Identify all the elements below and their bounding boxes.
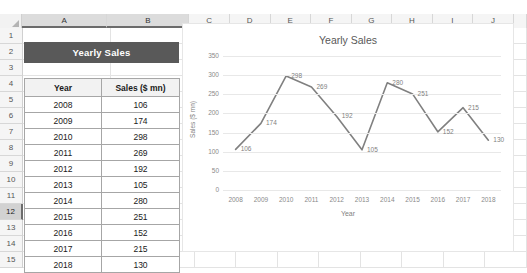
row-header-11[interactable]: 11 [0,188,23,204]
chart-y-tick-label: 150 [182,129,219,136]
cell-sales[interactable]: 215 [102,241,180,257]
row-header-6[interactable]: 6 [0,108,23,124]
select-all-triangle-icon [12,20,19,27]
table-header-sales: Sales ($ mn) [102,79,180,97]
cell-year[interactable]: 2010 [25,129,102,145]
chart-gridline [223,75,501,76]
row-header-5[interactable]: 5 [0,92,23,108]
cell-sales[interactable]: 280 [102,193,180,209]
cell-year[interactable]: 2011 [25,145,102,161]
row-header-10[interactable]: 10 [0,172,23,188]
cell-sales[interactable]: 269 [102,145,180,161]
chart-gridline [223,133,501,134]
row-header-9[interactable]: 9 [0,156,23,172]
cell[interactable] [195,252,237,268]
line-chart[interactable]: Yearly Sales Sales ($ mn) Year 050100150… [182,23,514,252]
table-row: 2010298 [25,129,180,145]
chart-y-axis-title: Sales ($ mn) [189,90,196,150]
chart-gridline [223,152,501,153]
column-header-a[interactable]: A [22,14,108,28]
data-table: Year Sales ($ mn) 2008106 2009174 201029… [24,78,180,273]
cell[interactable] [361,252,403,268]
chart-data-label: 152 [443,128,454,135]
table-row: 2013105 [25,177,180,193]
cell-year[interactable]: 2017 [25,241,102,257]
cell-year[interactable]: 2013 [25,177,102,193]
cell[interactable] [319,252,361,268]
row-header-4[interactable]: 4 [0,76,23,92]
chart-y-tick-label: 250 [182,90,219,97]
table-row: 2015251 [25,209,180,225]
cell[interactable] [236,252,278,268]
row-header-12[interactable]: 12 [0,204,23,220]
chart-data-label: 174 [266,119,277,126]
cell-sales[interactable]: 298 [102,129,180,145]
row-header-7[interactable]: 7 [0,124,23,140]
table-row: 2017215 [25,241,180,257]
chart-data-label: 192 [342,112,353,119]
cell[interactable] [278,252,320,268]
table-row: 2009174 [25,113,180,129]
table-row: 2016152 [25,225,180,241]
chart-x-axis-title: Year [183,210,513,217]
cell-sales[interactable]: 130 [102,257,180,273]
merged-title-cell[interactable]: Yearly Sales [24,42,179,63]
row-header-2[interactable]: 2 [0,44,23,60]
cell-sales[interactable]: 251 [102,209,180,225]
table-row: 2008106 [25,97,180,113]
table-row: 2018130 [25,257,180,273]
chart-y-tick-label: 0 [182,186,219,193]
row-header-15[interactable]: 15 [0,252,23,268]
column-header-b[interactable]: B [107,14,189,28]
chart-gridline [223,56,501,57]
cell[interactable] [485,252,527,268]
chart-y-tick-label: 350 [182,52,219,59]
chart-plot-area: 0501001502002503003502008200920102011201… [223,56,501,190]
chart-y-tick-label: 100 [182,148,219,155]
chart-gridline [223,171,501,172]
row-header-column: 1 2 3 4 5 6 7 8 9 10 11 12 13 14 15 [0,28,23,268]
cell-sales[interactable]: 174 [102,113,180,129]
chart-data-label: 130 [493,136,504,143]
table-row: 2011269 [25,145,180,161]
chart-y-tick-label: 200 [182,109,219,116]
column-header-partial[interactable] [514,14,527,28]
row-header-13[interactable]: 13 [0,220,23,236]
chart-x-tick-label: 2018 [473,196,503,203]
chart-y-tick-label: 300 [182,71,219,78]
cell-year[interactable]: 2016 [25,225,102,241]
cell-year[interactable]: 2009 [25,113,102,129]
cell-sales[interactable]: 152 [102,225,180,241]
table-row: 2012192 [25,161,180,177]
chart-data-label: 106 [241,145,252,152]
table-header-year: Year [25,79,102,97]
row-header-3[interactable]: 3 [0,60,23,76]
cell-year[interactable]: 2014 [25,193,102,209]
cell-sales[interactable]: 105 [102,177,180,193]
chart-data-label: 280 [392,79,403,86]
chart-data-label: 215 [468,104,479,111]
row-header-1[interactable]: 1 [0,28,23,44]
chart-data-label: 251 [418,90,429,97]
cell-year[interactable]: 2015 [25,209,102,225]
row-header-14[interactable]: 14 [0,236,23,252]
chart-gridline [223,190,501,191]
table-row: 2014280 [25,193,180,209]
chart-title: Yearly Sales [183,34,513,46]
cell-sales[interactable]: 192 [102,161,180,177]
chart-data-label: 298 [291,72,302,79]
chart-gridline [223,94,501,95]
cell[interactable] [402,252,444,268]
chart-data-label: 105 [367,146,378,153]
cell-year[interactable]: 2008 [25,97,102,113]
chart-y-tick-label: 50 [182,167,219,174]
cell-year[interactable]: 2012 [25,161,102,177]
select-all-corner[interactable] [0,14,22,28]
row-header-8[interactable]: 8 [0,140,23,156]
chart-data-label: 269 [316,83,327,90]
chart-gridline [223,113,501,114]
cell[interactable] [444,252,486,268]
cell-year[interactable]: 2018 [25,257,102,273]
cell-sales[interactable]: 106 [102,97,180,113]
